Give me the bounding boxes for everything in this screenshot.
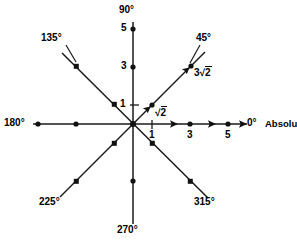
point-90deg-r3 xyxy=(130,64,135,69)
radial-label-sqrt2: √2 xyxy=(155,108,167,118)
y-tick-label-5: 5 xyxy=(121,23,127,33)
x-tick-label-3: 3 xyxy=(187,130,193,140)
radicand-sqrt2: 2 xyxy=(161,106,168,118)
point-315deg-rsqrt2 xyxy=(150,141,155,146)
point-180deg-r5 xyxy=(35,121,40,126)
point-180deg-r3 xyxy=(73,121,78,126)
radical-sign-glyph: √ xyxy=(155,107,161,118)
radical-symbol-sqrt2: √2 xyxy=(155,108,167,118)
axis-name-absolute: Absolute xyxy=(265,119,297,129)
point-315deg-r3sqrt2 xyxy=(188,179,193,184)
angle-label-0: 0° xyxy=(247,118,257,128)
point-45deg-rsqrt2 xyxy=(149,102,154,107)
angle-label-135: 135° xyxy=(41,33,62,43)
angle-label-315: 315° xyxy=(194,197,215,207)
angle-label-90: 90° xyxy=(119,5,134,15)
angle-label-270: 270° xyxy=(117,225,138,235)
y-tick-label-1: 1 xyxy=(120,99,126,109)
axis-lines xyxy=(33,22,247,224)
point-0deg-r5 xyxy=(225,121,230,126)
radicand-3sqrt2: 2 xyxy=(205,66,212,78)
x-tick-label-5: 5 xyxy=(225,130,231,140)
x-tick-label-1: 1 xyxy=(149,130,155,140)
leader-line-45 xyxy=(190,45,200,63)
point-135deg-r3sqrt2 xyxy=(74,64,79,69)
radial-label-3sqrt2: 3√2 xyxy=(194,68,212,78)
point-225deg-rsqrt2 xyxy=(112,141,117,146)
point-0deg-r3 xyxy=(187,121,192,126)
point-135deg-rsqrt2 xyxy=(112,102,117,107)
point-225deg-r3sqrt2 xyxy=(74,179,79,184)
point-90deg-r5 xyxy=(130,26,135,31)
angle-label-180: 180° xyxy=(4,118,25,128)
angle-label-225: 225° xyxy=(39,197,60,207)
polar-coordinate-diagram: 90° 45° 135° 180° 0° Absolute 225° 315° … xyxy=(0,0,297,243)
angle-label-45: 45° xyxy=(196,33,211,43)
point-270deg-r3 xyxy=(130,178,135,183)
point-45deg-r3sqrt2 xyxy=(188,63,193,68)
radical-symbol-3sqrt2: √2 xyxy=(200,68,212,78)
origin-point xyxy=(130,121,136,127)
y-tick-label-3: 3 xyxy=(121,61,127,71)
